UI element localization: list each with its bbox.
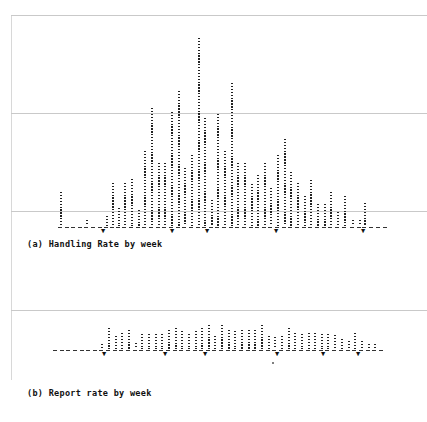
bar — [274, 337, 276, 349]
bar — [221, 325, 223, 349]
baseline-dash — [60, 350, 64, 351]
bar — [254, 330, 256, 349]
baseline-dash — [266, 350, 270, 351]
baseline-dash — [93, 350, 97, 351]
baseline-dash — [106, 350, 110, 351]
baseline-dash — [86, 350, 90, 351]
bar — [148, 334, 150, 349]
bar — [181, 331, 183, 349]
bar — [108, 328, 110, 349]
baseline-dash — [173, 350, 177, 351]
baseline-dash — [332, 350, 336, 351]
bar — [128, 330, 130, 349]
bar — [195, 331, 197, 349]
baseline-dash — [292, 350, 296, 351]
stray-mark — [272, 362, 274, 364]
bar — [341, 339, 343, 349]
baseline-dash — [379, 350, 383, 351]
baseline-dash — [239, 350, 243, 351]
baseline-dash — [113, 350, 117, 351]
bar — [141, 334, 143, 349]
bar — [368, 344, 370, 349]
baseline-dash — [339, 350, 343, 351]
bar — [241, 330, 243, 349]
week-marker-icon: ▼ — [203, 351, 207, 358]
panel-b-report-rate-chart: ▼▼▼▼▼▼ (b) Report rate by week — [0, 0, 427, 422]
baseline-dash — [133, 350, 137, 351]
week-marker-icon: ▼ — [321, 351, 325, 358]
grid-line-b — [11, 310, 427, 311]
baseline-dash — [259, 350, 263, 351]
bar — [294, 333, 296, 349]
baseline-dash — [186, 350, 190, 351]
bar — [135, 343, 137, 349]
bar — [201, 328, 203, 349]
bar — [188, 334, 190, 349]
baseline-dash — [66, 350, 70, 351]
baseline-dash — [226, 350, 230, 351]
baseline-dash — [212, 350, 216, 351]
baseline-dash — [372, 350, 376, 351]
bar — [155, 334, 157, 349]
bar — [248, 330, 250, 349]
bar — [234, 331, 236, 349]
bar — [301, 334, 303, 349]
baseline-dash — [80, 350, 84, 351]
baseline-dash — [299, 350, 303, 351]
bar — [261, 325, 263, 349]
baseline-dash — [312, 350, 316, 351]
bar — [268, 336, 270, 349]
baseline-dash — [193, 350, 197, 351]
bar — [161, 334, 163, 349]
baseline-dash — [139, 350, 143, 351]
caption-panel-b: (b) Report rate by week — [27, 388, 152, 398]
week-marker-icon: ▼ — [356, 351, 360, 358]
week-marker-icon: ▼ — [275, 351, 279, 358]
baseline-dash — [153, 350, 157, 351]
baseline-dash — [346, 350, 350, 351]
bar — [115, 336, 117, 349]
bar — [281, 336, 283, 349]
baseline-dash — [146, 350, 150, 351]
baseline-dash — [53, 350, 57, 351]
bar — [361, 341, 363, 349]
bar — [321, 334, 323, 349]
bar — [288, 328, 290, 349]
baseline-dash — [366, 350, 370, 351]
week-marker-icon: ▼ — [163, 351, 167, 358]
bar — [228, 330, 230, 349]
baseline-dash — [325, 350, 329, 351]
baseline-dash — [179, 350, 183, 351]
bar — [334, 335, 336, 349]
week-marker-icon: ▼ — [102, 351, 106, 358]
bar — [348, 341, 350, 349]
baseline-dash — [126, 350, 130, 351]
bar — [175, 328, 177, 349]
bar — [168, 330, 170, 349]
bar — [121, 333, 123, 349]
bar — [374, 344, 376, 349]
baseline-dash — [286, 350, 290, 351]
baseline-dash — [252, 350, 256, 351]
baseline-dash — [246, 350, 250, 351]
bar — [354, 333, 356, 349]
baseline-dash — [306, 350, 310, 351]
baseline-dash — [279, 350, 283, 351]
baseline-dash — [232, 350, 236, 351]
bar — [327, 334, 329, 349]
baseline-dash — [73, 350, 77, 351]
bar — [308, 333, 310, 349]
bar — [101, 344, 103, 349]
baseline-dash — [219, 350, 223, 351]
bar — [314, 333, 316, 349]
bar — [208, 325, 210, 349]
baseline-dash — [119, 350, 123, 351]
bar — [214, 336, 216, 349]
